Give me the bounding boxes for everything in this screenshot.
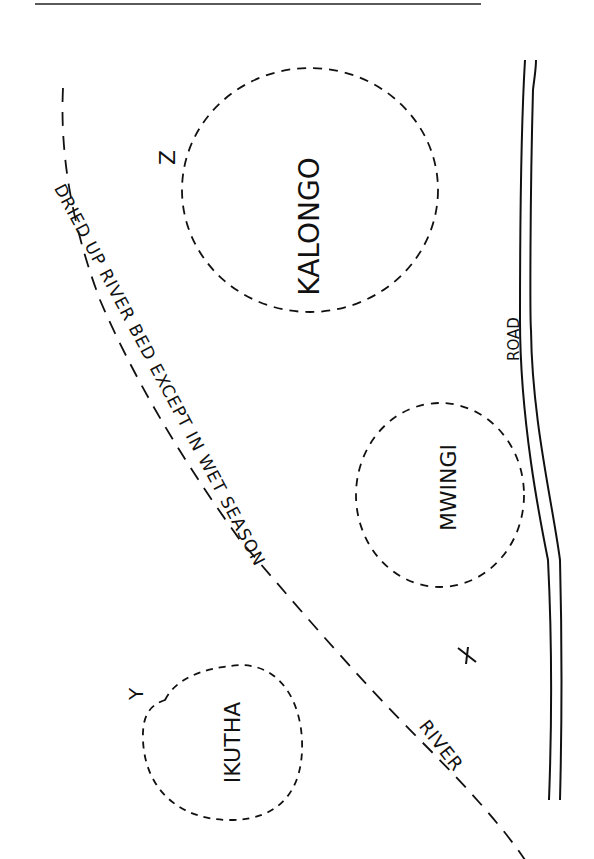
town-label-kalongo: KALONGO: [293, 157, 326, 295]
road: [520, 60, 562, 800]
road-label: ROAD: [505, 317, 523, 361]
map-drawing: [0, 0, 594, 859]
town-label-ikutha: IKUTHA: [220, 702, 245, 783]
marker-x-icon: [458, 647, 476, 664]
town-label-mwingi: MWINGI: [436, 444, 461, 531]
marker-label-y: Y: [124, 688, 148, 700]
marker-label-z: Z: [155, 150, 180, 165]
